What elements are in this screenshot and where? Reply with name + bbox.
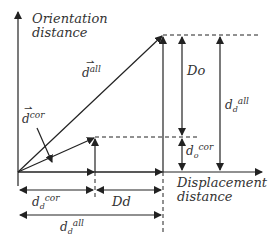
vector-cor	[18, 138, 94, 172]
dd-cor-sub: d	[40, 202, 45, 211]
vector-all-label: dall	[82, 66, 101, 80]
x-axis-label: Displacement distance	[177, 176, 267, 204]
dd-all-sup: all	[238, 96, 249, 106]
vector-all-sup: all	[90, 64, 101, 74]
do-cor-label: docor	[186, 144, 213, 158]
dd-all-bottom-base: d	[60, 220, 68, 234]
dd-all-bottom-sub: d	[68, 227, 73, 236]
vector-cor-base: d	[22, 112, 30, 126]
vector-diagram: Orientation distance Displacement distan…	[0, 0, 273, 245]
dd-all-sub: d	[233, 105, 238, 114]
dd-cor-sup: cor	[45, 193, 60, 203]
dd-cor-label: ddcor	[32, 195, 60, 209]
x-axis-label-line2: distance	[177, 190, 267, 204]
do-cor-sub: o	[194, 151, 199, 160]
do-cor-base: d	[186, 144, 194, 158]
dd-all-base: d	[225, 98, 233, 112]
y-axis-label-line1: Orientation	[32, 12, 108, 26]
dd-cor-base: d	[32, 195, 40, 209]
do-cor-sup: cor	[199, 142, 214, 152]
vector-all-base: d	[82, 66, 90, 80]
dd-all-label: ddall	[225, 98, 249, 112]
vector-cor-sup: cor	[30, 110, 45, 120]
do-label: Do	[187, 64, 205, 78]
x-axis-label-line1: Displacement	[177, 176, 267, 190]
y-axis-label-line2: distance	[32, 26, 108, 40]
vector-cor-label: dcor	[22, 112, 44, 126]
y-axis-label: Orientation distance	[32, 12, 108, 40]
dd-label: Dd	[112, 195, 131, 209]
dd-all-bottom-label: ddall	[60, 220, 84, 234]
dd-all-bottom-sup: all	[73, 218, 84, 228]
